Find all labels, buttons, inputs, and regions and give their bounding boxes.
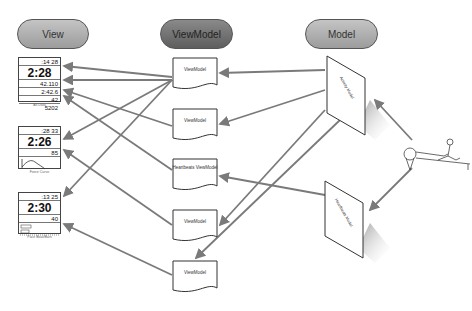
viewmodel-label: ViewModel [172, 118, 218, 123]
view-caption: Pace Boat/Bars [18, 235, 61, 239]
screen-row: 40 [19, 215, 60, 223]
view-screen-pace-boat: :13 25 2:30 40 [18, 192, 61, 234]
view-header-label: View [42, 29, 64, 40]
model-header: Model [305, 19, 378, 49]
screen-row: 2:28 [19, 66, 60, 80]
viewmodel-label: ViewModel [172, 219, 218, 224]
viewmodel-label: ViewModel [172, 67, 218, 72]
screen-row: 2:26 [19, 135, 60, 149]
model-header-label: Model [328, 29, 355, 40]
viewmodel-doc: ViewModel [172, 209, 218, 243]
viewmodel-doc: ViewModel [172, 260, 218, 294]
viewmodel-doc: ViewModel [172, 108, 218, 142]
heartbeats-model-panel: Heartbeats Model [320, 180, 400, 265]
view-caption: Force Curve [18, 170, 61, 174]
viewmodel-header: ViewModel [160, 19, 233, 49]
screen-row: :28 33 [19, 127, 60, 135]
screen-row: 42.110 [19, 80, 60, 88]
view-header: View [17, 19, 89, 49]
viewmodel-label: ViewModel [172, 270, 218, 275]
view-screen-all-data: :14 28 2:28 42.110 2:42.6 42 5202 [18, 57, 61, 102]
heartbeats-viewmodel-doc: Heartbeats ViewModel [172, 158, 218, 192]
viewmodel-header-label: ViewModel [172, 29, 221, 40]
view-screen-force-curve: :28 33 2:26 85 [18, 126, 61, 169]
viewmodel-doc: ViewModel [172, 57, 218, 91]
rowing-machine-icon [400, 130, 472, 190]
screen-row: :13 25 [19, 193, 60, 201]
force-curve-graph [19, 157, 60, 171]
screen-row: :14 28 [19, 58, 60, 66]
screen-row: 85 [19, 149, 60, 157]
screen-row: 2:42.6 [19, 88, 60, 96]
screen-row: 2:30 [19, 201, 60, 215]
activity-model-panel: Activity Model [320, 55, 400, 140]
viewmodel-label: Heartbeats ViewModel [172, 165, 218, 170]
view-caption: All Data [18, 103, 61, 107]
